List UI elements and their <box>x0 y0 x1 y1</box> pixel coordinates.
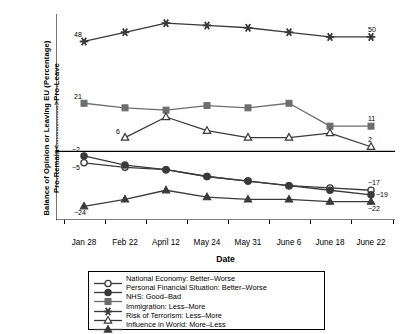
legend-marker-filled-triangle <box>93 320 123 329</box>
legend-item[interactable]: NHS: Good–Bad <box>93 292 320 301</box>
chart-legend: National Economy: Better–WorsePersonal F… <box>88 271 325 330</box>
chart-root: Balance of Opinion or Leaving EU (Percen… <box>0 0 410 334</box>
legend-item[interactable]: Risk of Terrorism: Less–More <box>93 311 320 320</box>
data-point-label: −17 <box>368 179 380 186</box>
legend-marker-asterisk <box>93 302 123 311</box>
legend-item[interactable]: Immigration: Less–More <box>93 302 320 311</box>
series-filled-square <box>81 100 374 129</box>
x-tick-mark <box>393 220 394 224</box>
x-tick-mark <box>310 220 311 224</box>
legend-marker-open-circle <box>93 274 123 283</box>
plot-area: Date Jan 28Feb 22April 12May 24May 31Jun… <box>56 14 395 220</box>
data-point-label: 11 <box>368 115 375 122</box>
data-point-label: −5 <box>72 164 80 171</box>
legend-item[interactable]: Personal Financial Situation: Better–Wor… <box>93 283 320 292</box>
legend-label: NHS: Good–Bad <box>126 292 181 301</box>
data-point-label: −24 <box>74 209 86 216</box>
x-tick-label: June 22 <box>345 238 397 247</box>
data-point-label: 48 <box>74 31 82 38</box>
x-tick-mark <box>187 220 188 224</box>
data-point-label: −2 <box>72 146 80 153</box>
legend-label: Influence in World: More–Less <box>126 320 226 329</box>
data-point-label: 50 <box>368 26 376 33</box>
data-point-label: −22 <box>368 205 380 212</box>
y-axis-title-line1: Balance of Opinion or Leaving EU (Percen… <box>42 13 52 243</box>
legend-label: Personal Financial Situation: Better–Wor… <box>126 283 267 292</box>
x-tick-mark <box>146 220 147 224</box>
series-asterisk <box>80 20 375 46</box>
legend-marker-open-triangle <box>93 311 123 320</box>
data-point-label: 21 <box>74 93 82 100</box>
data-point-label: 2 <box>368 136 372 143</box>
x-tick-mark <box>105 220 106 224</box>
legend-label: Risk of Terrorism: Less–More <box>126 311 222 320</box>
legend-label: Immigration: Less–More <box>126 302 205 311</box>
x-tick-mark <box>269 220 270 224</box>
data-point-label: 6 <box>116 128 120 135</box>
legend-item[interactable]: National Economy: Better–Worse <box>93 274 320 283</box>
chart-svg <box>56 14 395 220</box>
x-tick-mark <box>228 220 229 224</box>
x-tick-mark <box>351 220 352 224</box>
series-filled-circle <box>81 153 374 198</box>
series-open-triangle <box>121 113 374 149</box>
legend-label: National Economy: Better–Worse <box>126 274 235 283</box>
legend-marker-filled-circle <box>93 283 123 292</box>
legend-marker-filled-square <box>93 292 123 301</box>
x-axis-title: Date <box>56 254 395 264</box>
data-point-label: −19 <box>376 191 388 198</box>
x-tick-mark <box>64 220 65 224</box>
legend-item[interactable]: Influence in World: More–Less <box>93 320 320 329</box>
